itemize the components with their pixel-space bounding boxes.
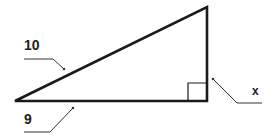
triangle-svg: 10 9 x: [0, 0, 274, 139]
right-angle-marker: [188, 83, 207, 101]
hypotenuse-label: 10: [24, 37, 40, 53]
height-leader-dot: [212, 78, 215, 81]
hypotenuse-leader-dot: [63, 68, 66, 71]
height-label: x: [252, 84, 259, 98]
hypotenuse-leader-line: [24, 59, 64, 69]
triangle-diagram: 10 9 x: [0, 0, 274, 139]
base-label: 9: [24, 111, 32, 127]
right-triangle: [15, 7, 207, 101]
base-leader-dot: [72, 107, 75, 110]
